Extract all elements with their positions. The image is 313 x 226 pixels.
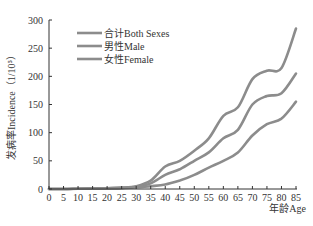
x-tick-label: 55 — [204, 192, 214, 203]
y-tick-label: 100 — [28, 127, 43, 138]
x-tick-label: 50 — [189, 192, 199, 203]
x-tick-label: 5 — [61, 192, 66, 203]
y-axis-title: 发病率Incidence（1/10⁵） — [5, 50, 17, 160]
x-tick-label: 65 — [233, 192, 243, 203]
x-tick-label: 20 — [102, 192, 112, 203]
plot-lines — [49, 29, 296, 190]
y-ticks: 050100150200250300 — [28, 15, 52, 195]
line-both-sexes — [49, 29, 296, 190]
legend-item-male: 男性Male — [77, 40, 145, 52]
y-tick-label: 300 — [28, 15, 43, 26]
x-tick-label: 40 — [160, 192, 170, 203]
x-tick-label: 60 — [218, 192, 228, 203]
x-tick-label: 45 — [175, 192, 185, 203]
y-tick-label: 0 — [38, 184, 43, 195]
x-tick-label: 70 — [247, 192, 257, 203]
x-tick-label: 0 — [47, 192, 52, 203]
legend-label: 女性Female — [104, 53, 154, 65]
y-tick-label: 200 — [28, 71, 43, 82]
line-female — [49, 102, 296, 189]
x-tick-label: 15 — [88, 192, 98, 203]
x-tick-label: 35 — [146, 192, 156, 203]
x-tick-label: 85 — [291, 192, 301, 203]
x-tick-label: 10 — [73, 192, 83, 203]
x-axis-title: 年龄Age — [269, 202, 306, 214]
x-tick-label: 75 — [262, 192, 272, 203]
x-tick-label: 80 — [276, 192, 286, 203]
y-tick-label: 250 — [28, 43, 43, 54]
legend-label: 合计Both Sexes — [104, 27, 169, 39]
legend-label: 男性Male — [104, 40, 145, 52]
y-tick-label: 150 — [28, 99, 43, 110]
incidence-line-chart: 合计Both Sexes男性Male女性Female 0501001502002… — [0, 0, 313, 226]
x-tick-label: 30 — [131, 192, 141, 203]
legend-item-female: 女性Female — [77, 53, 154, 65]
y-tick-label: 50 — [33, 155, 43, 166]
legend-item-both-sexes: 合计Both Sexes — [77, 27, 169, 39]
legend: 合计Both Sexes男性Male女性Female — [77, 27, 169, 65]
x-tick-label: 25 — [117, 192, 127, 203]
